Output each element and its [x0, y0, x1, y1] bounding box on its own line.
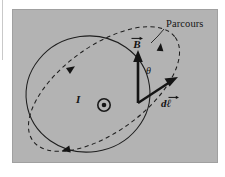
b-field-vector-symbol: B: [131, 39, 143, 50]
parcours-label: Parcours: [166, 19, 204, 30]
loop-arrowhead-upper-left: [66, 63, 77, 74]
amperian-loop-ellipse: [12, 9, 200, 163]
current-icon-center-dot: [102, 103, 107, 108]
current-out-of-page-icon: [98, 99, 110, 111]
parcours-leader-line: [151, 29, 164, 43]
dl-vector-label: dℓ: [161, 95, 179, 109]
b-vector-accent-arrow: [131, 36, 143, 40]
current-label: I: [76, 94, 80, 105]
page-left-rule: [2, 0, 3, 60]
angle-theta-label: θ: [146, 66, 151, 76]
loop-arrowhead-right: [157, 43, 165, 52]
parcours-leader-path: [151, 29, 164, 43]
b-vector-head: [133, 50, 143, 62]
amperian-loop-path: [12, 9, 200, 163]
dl-vector-symbol: dℓ: [161, 98, 179, 109]
dl-vector-accent-arrow: [168, 95, 179, 99]
figure-drawing-canvas: [12, 9, 218, 163]
b-field-vector-label: B: [131, 36, 143, 50]
figure-root: Parcours I θ B dℓ: [0, 0, 225, 177]
loop-arrowhead-bottom-left: [61, 145, 71, 154]
b-field-vector: [133, 50, 143, 103]
